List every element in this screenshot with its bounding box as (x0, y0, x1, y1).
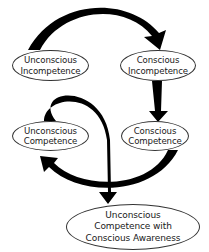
node-label-line: Unconscious (21, 55, 81, 66)
node-label-line: Conscious Awareness (86, 233, 181, 245)
node-label-line: Unconscious (24, 126, 78, 137)
node-label-line: Competence (24, 136, 78, 147)
arrow-ui-to-ci (28, 8, 166, 50)
node-label-line: Conscious (128, 126, 182, 137)
node-unconscious-incompetence: Unconscious Incompetence (12, 50, 89, 81)
node-conscious-competence: Conscious Competence (121, 121, 189, 151)
node-conscious-incompetence: Conscious Incompetence (120, 50, 196, 81)
node-label-line: Competence (128, 136, 182, 147)
node-label-line: Conscious (128, 55, 188, 66)
node-unconscious-competence-with-awareness: Unconscious Competence with Conscious Aw… (66, 204, 200, 250)
node-label-line: Unconscious (86, 210, 181, 222)
node-label-line: Competence with (86, 221, 181, 233)
arrow-ci-to-cc (149, 81, 168, 122)
node-label-line: Incompetence (128, 66, 188, 77)
node-unconscious-competence: Unconscious Competence (12, 121, 89, 151)
node-label-line: Incompetence (21, 66, 81, 77)
